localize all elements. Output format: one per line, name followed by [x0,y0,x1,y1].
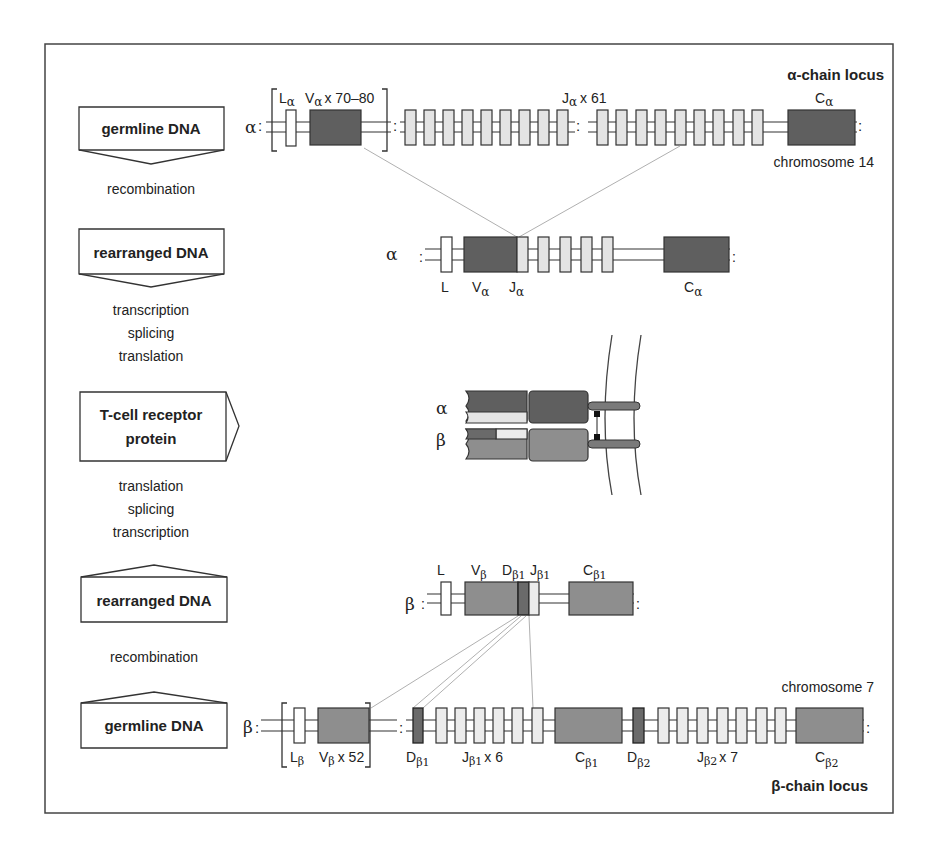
svg-text::: : [576,117,580,134]
beta-rearranged-D [518,582,529,615]
flow-step-translation-2: translation [119,478,184,494]
svg-text::: : [399,719,403,736]
flow-step-recombination-top: recombination [107,181,195,197]
alpha-rearranged-L-label: L [441,279,449,295]
alpha-constant-domain [529,391,588,423]
alpha-L-segment [286,110,296,146]
beta-V-segment [318,708,369,743]
beta-rearranged-C-label: Cβ1 [583,562,606,582]
alpha-J-segments-group2 [597,110,763,145]
flow-label-protein-line1: T-cell receptor [100,406,203,423]
flow-label-germline-top: germline DNA [101,120,200,137]
flow-label-germline-bottom: germline DNA [104,717,203,734]
tcr-protein-illustration: α β [436,335,641,495]
flow-step-transcription-1: transcription [113,302,189,318]
flow-box-germline-top: germline DNA [79,107,224,164]
alpha-rearranged-C [664,237,729,272]
flow-step-splicing-1: splicing [128,325,175,341]
membrane-inner [634,335,641,495]
beta-D2-label: Dβ2 [627,749,650,770]
beta-J2-segments [658,708,786,743]
beta-J1-label: Jβ1x 6 [462,749,503,768]
tcr-gene-diagram: germline DNA recombination rearranged DN… [0,0,937,848]
flow-box-rearranged-top: rearranged DNA [79,229,224,287]
beta-D1-label: Dβ1 [406,749,429,769]
beta-rearranged-J [529,582,539,615]
alpha-rearranged-V [464,237,517,272]
beta-germline-locus: chromosome 7 β : : : [243,679,874,794]
flow-box-rearranged-bottom: rearranged DNA [81,565,227,622]
svg-text::: : [258,117,262,134]
svg-text::: : [393,117,397,134]
protein-beta-symbol: β [436,430,446,450]
beta-rearranged-L [441,582,451,615]
alpha-rearranged-dna: α : : L Vα Jα Cα [386,237,736,299]
beta-C2-label: Cβ2 [815,749,838,770]
beta-chain-symbol: β [243,717,253,737]
flow-label-rearranged-top: rearranged DNA [93,244,208,261]
alpha-V-label: Vαx 70–80 [305,90,374,109]
flow-step-transcription-2: transcription [113,524,189,540]
alpha-C-label: Cα [815,90,833,109]
svg-text::: : [866,719,870,736]
beta-C1-label: Cβ1 [575,749,598,770]
svg-text::: : [636,596,640,612]
beta-J2-label: Jβ2x 7 [697,749,738,768]
beta-rearranged-dna: β : : L Vβ Dβ1 Jβ1 Cβ1 [371,562,640,708]
beta-constant-domain [529,429,588,461]
beta-L-label: Lβ [290,749,304,768]
alpha-chain-symbol: α [245,117,257,137]
alpha-C-segment [788,110,855,145]
alpha-rearranged-V-label: Vα [472,279,489,299]
alpha-rearranged-J-label: Jα [509,279,524,299]
protein-alpha-symbol: α [436,398,448,418]
svg-text::: : [255,719,259,736]
alpha-J-segments-group1 [405,110,568,145]
svg-text::: : [421,596,425,612]
beta-C2-segment [796,708,863,743]
flow-step-translation-1: translation [119,348,184,364]
beta-V-label: Vβx 52 [319,749,364,768]
svg-text::: : [858,117,862,134]
beta-rearranged-L-label: L [437,562,445,578]
beta-D1-segment [413,708,423,743]
flow-step-splicing-2: splicing [128,501,175,517]
flow-box-protein: T-cell receptor protein [80,392,239,461]
beta-L-segment [294,708,305,743]
beta-chromosome-label: chromosome 7 [781,679,874,695]
alpha-rearranged-symbol: α [386,244,398,264]
alpha-rearranged-L [441,237,452,272]
beta-locus-title: β-chain locus [771,777,868,794]
beta-rearranged-V [465,582,518,615]
beta-transmembrane [588,440,640,448]
alpha-L-label: Lα [279,90,295,109]
membrane-outer [605,335,612,495]
alpha-rearranged-C-label: Cα [684,279,702,299]
beta-C1-segment [555,708,622,743]
beta-rearranged-C [569,582,633,615]
beta-J1-segments [436,708,543,743]
alpha-V-segment [310,110,361,145]
beta-rearranged-V-label: Vβ [471,562,487,582]
alpha-chromosome-label: chromosome 14 [774,154,875,170]
beta-rearranged-J-label: Jβ1 [530,562,550,582]
flow-label-protein-line2: protein [126,430,177,447]
svg-text::: : [419,249,423,265]
alpha-locus-title: α-chain locus [787,66,884,83]
alpha-rearranged-J [517,237,528,272]
disulfide-bond-bottom [594,434,600,440]
flow-step-recombination-bottom: recombination [110,649,198,665]
alpha-transmembrane [588,402,640,410]
beta-D2-segment [633,708,644,743]
alpha-germline-locus: α-chain locus α : : : : Lα Vαx 70–80 [245,66,884,237]
flow-box-germline-bottom: germline DNA [81,692,227,748]
flow-label-rearranged-bottom: rearranged DNA [96,592,211,609]
beta-rearranged-D-label: Dβ1 [502,562,525,582]
beta-rearranged-symbol: β [405,594,415,614]
alpha-J-label: Jαx 61 [562,90,607,109]
svg-text::: : [732,249,736,265]
disulfide-bond-top [594,411,600,417]
